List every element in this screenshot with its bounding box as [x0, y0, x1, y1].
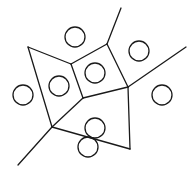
voronoi-edge [128, 87, 130, 149]
voronoi-edges [18, 8, 186, 165]
voronoi-sites [13, 27, 172, 157]
voronoi-edge [28, 47, 71, 64]
voronoi-edge [83, 87, 128, 98]
site-circle [49, 76, 69, 96]
site-circle [85, 118, 105, 138]
site-circle [129, 41, 149, 61]
site-circle [65, 27, 85, 47]
voronoi-edge [128, 47, 186, 87]
voronoi-edge [107, 44, 128, 87]
site-circle [78, 137, 98, 157]
voronoi-edge [18, 127, 52, 165]
site-circle [13, 85, 33, 105]
voronoi-edge [107, 8, 121, 44]
site-circle [85, 63, 105, 83]
voronoi-edge [52, 98, 83, 127]
site-circle [152, 85, 172, 105]
voronoi-diagram [0, 0, 195, 172]
diagram-canvas [0, 0, 195, 172]
voronoi-edge [71, 64, 83, 98]
